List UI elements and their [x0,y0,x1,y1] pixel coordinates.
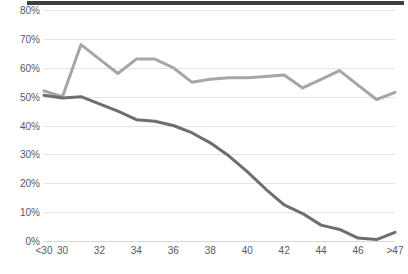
gridline-0% [44,241,395,242]
x-tick-label: 32 [94,245,105,256]
y-tick-label: 70% [0,33,40,44]
x-tick-label: 34 [131,245,142,256]
y-tick-label: 10% [0,207,40,218]
y-tick-label: 60% [0,62,40,73]
series-lines [44,10,395,241]
x-tick-label: 42 [279,245,290,256]
line-upper-series [44,45,395,100]
y-axis: 0%10%20%30%40%50%60%70%80% [0,10,40,241]
x-tick-label: 38 [205,245,216,256]
x-tick-label: 46 [352,245,363,256]
y-tick-label: 40% [0,120,40,131]
x-tick-label: 44 [316,245,327,256]
x-tick-label: >47 [387,245,404,256]
line-lower-series [44,95,395,239]
x-axis: <30303234363840424446>47 [44,245,395,265]
y-tick-label: 20% [0,178,40,189]
legend-strip [27,1,404,5]
y-tick-label: 0% [0,236,40,247]
x-tick-label: <30 [36,245,53,256]
x-tick-label: 30 [57,245,68,256]
y-tick-label: 80% [0,5,40,16]
y-tick-label: 50% [0,91,40,102]
chart-container: 0%10%20%30%40%50%60%70%80% <303032343638… [0,0,408,274]
x-tick-label: 36 [168,245,179,256]
y-tick-label: 30% [0,149,40,160]
x-tick-label: 40 [242,245,253,256]
plot-area [44,10,395,241]
